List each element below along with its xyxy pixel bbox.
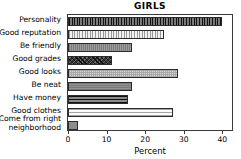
bar	[68, 30, 164, 40]
x-tick-label: 40	[212, 135, 232, 144]
x-tick-label: 0	[58, 135, 78, 144]
bar-chart: GIRLS PersonalityGood reputationBe frien…	[0, 0, 241, 159]
bar	[68, 69, 178, 79]
category-label: Have money	[0, 94, 61, 103]
bar	[68, 108, 173, 118]
x-axis-title: Percent	[67, 146, 233, 156]
category-label: Come from right neighborhood	[0, 115, 61, 132]
x-tick-mark	[184, 131, 185, 134]
category-label: Good looks	[0, 68, 61, 77]
bar	[68, 17, 222, 27]
category-label: Good grades	[0, 55, 61, 64]
chart-title: GIRLS	[67, 1, 233, 12]
x-tick-label: 30	[174, 135, 194, 144]
x-tick-label: 20	[135, 135, 155, 144]
bar	[68, 121, 78, 131]
plot-area	[67, 14, 233, 131]
x-tick-mark	[222, 131, 223, 134]
category-label: Be friendly	[0, 42, 61, 51]
x-tick-mark	[107, 131, 108, 134]
x-tick-mark	[145, 131, 146, 134]
bar	[68, 82, 132, 92]
category-label: Be neat	[0, 81, 61, 90]
x-tick-mark	[68, 131, 69, 134]
category-label: Personality	[0, 16, 61, 25]
category-axis-labels: PersonalityGood reputationBe friendlyGoo…	[0, 14, 64, 131]
category-label: Good reputation	[0, 29, 61, 38]
x-tick-label: 10	[97, 135, 117, 144]
bar	[68, 56, 112, 66]
bar	[68, 95, 128, 105]
bar	[68, 43, 132, 53]
